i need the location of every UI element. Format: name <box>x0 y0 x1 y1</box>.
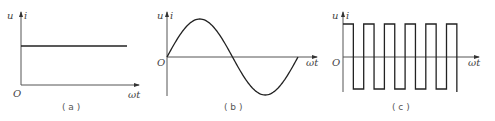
origin-label: O <box>13 88 21 99</box>
y-axis-label-i: i <box>24 10 27 21</box>
x-axis-label: ωt <box>468 57 481 68</box>
waveform-figure: u i O ωt ( a ) u i O ωt ( b ) u i O ωt (… <box>0 0 495 121</box>
x-axis-label: ωt <box>128 89 141 100</box>
caption-a: ( a ) <box>62 102 80 112</box>
panel-b: u i O ωt ( b ) <box>157 10 319 112</box>
y-axis-label-i: i <box>170 10 173 21</box>
origin-label: O <box>157 57 165 68</box>
caption-b: ( b ) <box>224 102 242 112</box>
panel-c: u i O ωt ( c ) <box>332 10 481 112</box>
y-axis-label-i: i <box>346 10 349 21</box>
square-waveform <box>343 24 457 92</box>
y-axis-label-u: u <box>157 10 163 21</box>
panel-a: u i O ωt ( a ) <box>7 10 141 112</box>
y-axis-label-u: u <box>332 10 338 21</box>
origin-label: O <box>332 57 340 68</box>
x-axis-label: ωt <box>306 57 319 68</box>
y-axis-label-u: u <box>7 10 13 21</box>
caption-c: ( c ) <box>392 102 410 112</box>
